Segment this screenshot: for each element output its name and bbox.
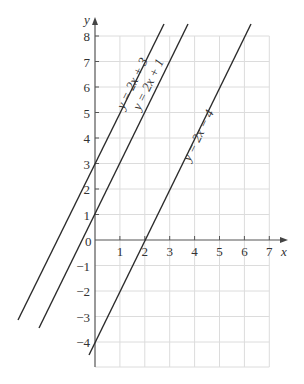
line-2x-plus-1 <box>39 24 188 328</box>
svg-text:−2: −2 <box>76 284 90 299</box>
svg-text:6: 6 <box>84 80 91 95</box>
svg-text:−3: −3 <box>76 310 90 325</box>
svg-text:7: 7 <box>84 55 91 70</box>
y-tick-labels: 8 7 6 5 4 3 2 1 −1 −2 −3 −4 <box>76 29 90 350</box>
svg-text:1: 1 <box>84 208 91 223</box>
svg-text:−1: −1 <box>76 259 90 274</box>
svg-text:3: 3 <box>84 157 91 172</box>
x-axis-label: x <box>280 244 287 259</box>
svg-text:7: 7 <box>266 244 273 259</box>
svg-text:5: 5 <box>84 106 91 121</box>
origin-label: 0 <box>85 234 92 249</box>
x-axis-arrow-icon <box>280 237 288 243</box>
y-axis-arrow-icon <box>92 17 98 25</box>
y-axis-label: y <box>82 12 90 27</box>
svg-text:5: 5 <box>216 244 223 259</box>
svg-text:3: 3 <box>166 244 173 259</box>
svg-text:1: 1 <box>117 244 124 259</box>
svg-text:4: 4 <box>84 131 91 146</box>
svg-text:−4: −4 <box>76 335 90 350</box>
label-2x-minus-4: y = 2x − 4 <box>178 107 217 165</box>
axes <box>95 22 284 367</box>
coordinate-graph: y x 0 1 2 3 4 5 6 7 8 7 6 5 4 3 2 1 −1 −… <box>0 0 304 384</box>
svg-text:8: 8 <box>84 29 91 44</box>
svg-text:6: 6 <box>241 244 248 259</box>
grid <box>95 36 269 367</box>
svg-text:4: 4 <box>191 244 198 259</box>
